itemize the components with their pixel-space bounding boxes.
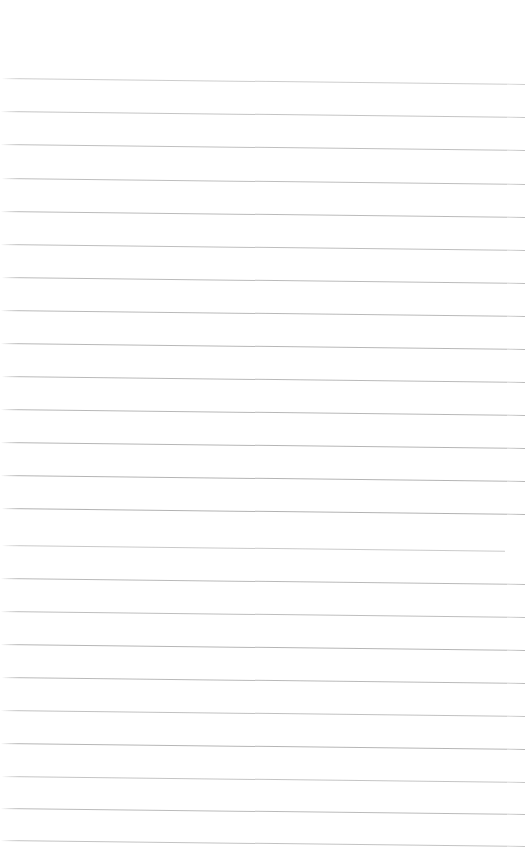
ruled-line (1, 710, 525, 717)
ruled-line (1, 475, 525, 482)
bottom-margin (0, 841, 525, 864)
ruled-line (1, 578, 525, 585)
ruled-line (2, 508, 525, 515)
ruled-line (1, 442, 525, 449)
ruled-line (2, 677, 525, 684)
ruled-line (1, 310, 525, 317)
top-margin (0, 0, 525, 78)
ruled-line (1, 409, 525, 416)
ruled-line (1, 244, 525, 251)
ruled-line (1, 808, 525, 815)
scanned-page (0, 0, 525, 864)
ruled-line (2, 277, 525, 284)
ruled-line (1, 211, 525, 218)
ruled-line (1, 644, 525, 651)
ruled-line (1, 840, 525, 847)
ruled-line (1, 743, 525, 750)
ruled-line (2, 78, 525, 85)
ruled-line (1, 343, 525, 350)
ruled-line (1, 111, 525, 118)
ruled-line (2, 776, 525, 783)
ruled-line (2, 376, 525, 383)
ruled-line (1, 144, 525, 151)
ruled-line (2, 545, 505, 552)
ruled-line (2, 178, 525, 185)
ruled-line (1, 611, 525, 618)
